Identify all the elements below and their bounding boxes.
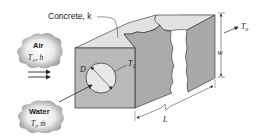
air-cloud: Air T∞, h [17,33,63,68]
outer-temp-arrow [224,27,238,33]
outer-surface-temp-label: To [241,22,248,32]
water-cloud-shape [18,100,64,133]
air-title: Air [33,41,44,50]
length-label: L [162,115,168,124]
width-dimension: w [218,13,226,77]
concrete-slab-front-segment [75,15,174,108]
air-params: T∞, h [28,53,44,63]
water-title: Water [29,107,50,116]
water-cloud: Water Ti, ṁ [18,100,64,133]
concrete-label: Concrete, k [48,11,92,21]
width-label: w [218,48,223,57]
air-cloud-shape [17,33,63,68]
water-params: Ti, ṁ [31,119,46,129]
heat-transfer-diagram: Concrete, k D T1 w To L Air T∞, h Water … [0,0,261,137]
diameter-label: D [79,65,86,74]
